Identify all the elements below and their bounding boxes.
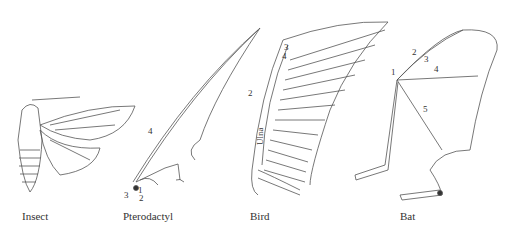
- wing-comparison-diagram: 4 1 2 3 2 3 4 Ulna 1 2 3 4 5 Insect Pter…: [0, 0, 513, 233]
- bat-label-2: 2: [412, 48, 417, 57]
- caption-bat: Bat: [400, 210, 415, 222]
- wing-drawings: [0, 0, 513, 233]
- bird-label-2: 2: [248, 89, 253, 98]
- caption-pterodactyl: Pterodactyl: [123, 210, 173, 222]
- pterodactyl-drawing: [133, 28, 260, 191]
- bat-label-1: 1: [391, 68, 396, 77]
- bat-label-5: 5: [423, 105, 428, 114]
- pterodactyl-label-2: 2: [139, 194, 144, 203]
- caption-insect: Insect: [22, 210, 48, 222]
- insect-drawing: [18, 97, 135, 192]
- bat-label-3: 3: [424, 55, 429, 64]
- pterodactyl-label-3: 3: [124, 191, 129, 200]
- bird-drawing: [252, 22, 388, 195]
- bird-ulna-label: Ulna: [255, 128, 265, 146]
- bat-label-4: 4: [434, 65, 439, 74]
- caption-bird: Bird: [250, 210, 270, 222]
- bird-label-4: 4: [282, 52, 287, 61]
- pterodactyl-label-4: 4: [148, 127, 153, 136]
